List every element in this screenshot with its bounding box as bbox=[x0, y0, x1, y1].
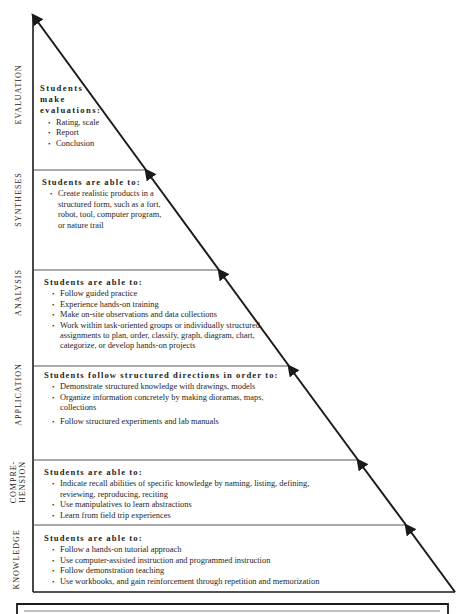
list-item: Learn from field trip experiences bbox=[52, 511, 339, 521]
list-item: Follow demonstration teaching bbox=[52, 566, 384, 576]
level-label-evaluation: EVALUATION bbox=[14, 65, 23, 125]
list-item: Use manipulatives to learn abstractions bbox=[52, 500, 339, 510]
list-item: Follow a hands-on tutorial approach bbox=[52, 545, 384, 555]
list-item: Indicate recall abilities of specific kn… bbox=[52, 479, 339, 500]
level-block-syntheses: Students are able to: Create realistic p… bbox=[42, 177, 167, 231]
level-heading: Students are able to: bbox=[42, 177, 167, 187]
level-heading: Students are able to: bbox=[44, 533, 384, 543]
level-block-application: Students follow structured directions in… bbox=[44, 370, 294, 427]
level-heading: Students are able to: bbox=[44, 467, 339, 477]
list-item: Report bbox=[48, 128, 130, 138]
list-item: Follow structured experiments and lab ma… bbox=[52, 417, 294, 427]
bottom-box bbox=[17, 604, 448, 614]
list-item: Rating, scale bbox=[48, 118, 130, 128]
list-item: Follow guided practice bbox=[52, 289, 269, 299]
list-item: Organize information concretely by makin… bbox=[52, 393, 294, 414]
level-heading: Students are able to: bbox=[44, 277, 269, 287]
level-label-comprehension: COMPRE- HENSION bbox=[9, 454, 27, 510]
level-heading: Students make evaluations: bbox=[40, 83, 130, 116]
level-block-evaluation: Students make evaluations: Rating, scale… bbox=[40, 83, 130, 149]
list-item: Work within task-oriented groups or indi… bbox=[52, 321, 269, 352]
level-label-analysis: ANALYSIS bbox=[14, 265, 23, 321]
list-item: Demonstrate structured knowledge with dr… bbox=[52, 382, 294, 392]
level-label-syntheses: SYNTHESES bbox=[14, 170, 23, 230]
list-item: Make on-site observations and data colle… bbox=[52, 310, 269, 320]
level-heading: Students follow structured directions in… bbox=[44, 370, 294, 380]
level-block-knowledge: Students are able to: Follow a hands-on … bbox=[44, 533, 384, 587]
level-label-knowledge: KNOWLEDGE bbox=[12, 530, 21, 590]
list-item: Experience hands-on training bbox=[52, 300, 269, 310]
level-block-comprehension: Students are able to: Indicate recall ab… bbox=[44, 467, 339, 521]
list-item: Use workbooks, and gain reinforcement th… bbox=[52, 577, 384, 587]
list-item: Create realistic products in a structure… bbox=[50, 189, 167, 231]
level-block-analysis: Students are able to: Follow guided prac… bbox=[44, 277, 269, 352]
list-item: Conclusion bbox=[48, 139, 130, 149]
list-item: Use computer-assisted instruction and pr… bbox=[52, 556, 384, 566]
level-label-application: APPLICATION bbox=[14, 355, 23, 435]
